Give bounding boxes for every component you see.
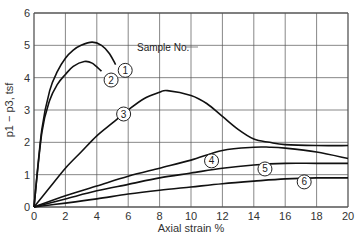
x-tick-label: 2 [62, 210, 68, 222]
x-tick-label: 16 [279, 210, 291, 222]
sample-no-label: Sample No. [137, 42, 189, 53]
x-tick-label: 12 [216, 210, 228, 222]
y-tick-label: 3 [24, 104, 30, 116]
x-tick-label: 18 [310, 210, 322, 222]
curve-sample-2 [34, 61, 102, 207]
sample-number: 1 [122, 65, 128, 76]
x-tick-label: 0 [31, 210, 37, 222]
x-tick-label: 6 [125, 210, 131, 222]
x-axis-ticks: 02468101214161820 [31, 210, 354, 222]
y-axis-ticks: 0123456 [24, 7, 30, 213]
y-tick-label: 5 [24, 39, 30, 51]
annotations: Sample No.123456 [104, 42, 311, 189]
x-tick-label: 4 [94, 210, 100, 222]
sample-number: 3 [121, 109, 127, 120]
x-tick-label: 14 [248, 210, 260, 222]
x-tick-label: 10 [185, 210, 197, 222]
y-axis-label: p1 − p3, tsf [3, 82, 15, 138]
y-tick-label: 2 [24, 136, 30, 148]
y-tick-label: 6 [24, 7, 30, 19]
stress-strain-chart: 02468101214161820 0123456 Axial strain %… [0, 0, 364, 238]
curve-sample-1 [34, 42, 116, 207]
y-tick-label: 4 [24, 72, 30, 84]
x-tick-label: 20 [342, 210, 354, 222]
y-tick-label: 0 [24, 201, 30, 213]
x-tick-label: 8 [157, 210, 163, 222]
x-axis-label: Axial strain % [158, 222, 225, 234]
sample-number: 2 [108, 75, 114, 86]
sample-number: 6 [301, 176, 307, 187]
sample-number: 4 [209, 155, 215, 166]
sample-number: 5 [262, 163, 268, 174]
y-tick-label: 1 [24, 169, 30, 181]
